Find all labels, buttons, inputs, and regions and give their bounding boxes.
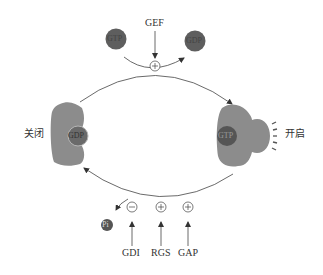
pi-release-arc [116,199,128,210]
off-state-label: 关闭 [24,129,44,139]
activity-signal-icon [272,122,277,150]
on-state-label: 开启 [285,129,305,139]
gdp-bound-label: GDP [68,132,84,140]
gef-label: GEF [145,18,164,28]
gtp-bound-label: GTP [218,132,233,140]
gdp-outgoing-label: GDP [186,37,202,45]
rgs-label: RGS [151,248,170,258]
gap-label: GAP [178,248,198,258]
cycle-diagram [0,0,323,275]
pi-label: Pi [102,221,109,229]
hydrolysis-arc [84,168,233,197]
activation-arc [80,75,232,104]
gdi-label: GDI [122,248,140,258]
gtp-incoming-label: GTP [107,35,122,43]
